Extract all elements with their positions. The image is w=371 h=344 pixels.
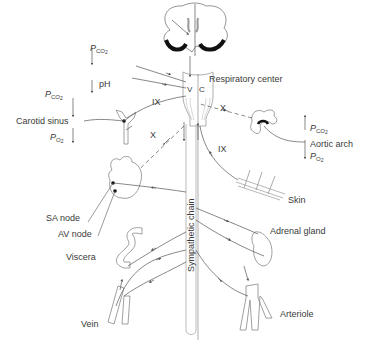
adrenal-gland-illustration xyxy=(196,208,272,266)
aortic-po2-label: PO2 xyxy=(310,152,323,163)
sa-node-label: SA node xyxy=(46,214,80,223)
viscera-label: Viscera xyxy=(66,253,96,262)
skin-illustration xyxy=(200,126,285,200)
skin-label: Skin xyxy=(288,196,306,205)
heart-illustration xyxy=(88,156,186,236)
aortic-arch-label: Aortic arch xyxy=(310,140,353,149)
aortic-arch-illustration xyxy=(200,104,305,158)
carotid-po2-label: PO2 xyxy=(50,133,63,144)
av-node-label: AV node xyxy=(58,230,92,239)
diagram-canvas xyxy=(0,0,371,344)
brainstem-c-label: C xyxy=(199,86,205,94)
sympathetic-chain-label: Sympathetic chain xyxy=(187,198,196,272)
central-pco2-label: PCO2 xyxy=(90,44,108,55)
glossopharyngeal-nerve-skin-label: IX xyxy=(218,145,227,154)
glossopharyngeal-nerve-carotid-label: IX xyxy=(152,98,161,107)
central-ph-label: pH xyxy=(99,80,111,89)
brainstem-v-label: V xyxy=(187,86,192,94)
vagus-nerve-aortic-label: X xyxy=(220,104,226,113)
carotid-pco2-label: PCO2 xyxy=(45,90,63,101)
arteriole-label: Arteriole xyxy=(280,310,314,319)
brain-illustration xyxy=(164,3,227,56)
respiratory-center-label: Respiratory center xyxy=(209,75,283,84)
carotid-sinus-label: Carotid sinus xyxy=(16,117,69,126)
vein-label: Vein xyxy=(81,320,99,329)
aortic-pco2-label: PCO2 xyxy=(310,124,328,135)
adrenal-gland-label: Adrenal gland xyxy=(270,227,326,236)
carotid-sinus-illustration xyxy=(73,96,186,144)
vagus-nerve-carotid-label: X xyxy=(150,131,156,140)
